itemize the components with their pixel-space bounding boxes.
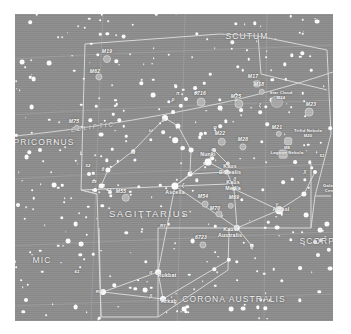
greek-letter-13: η [250, 245, 253, 250]
greek-letter-16: α [149, 270, 152, 275]
dso-label-m54: M54 [198, 194, 208, 199]
dso-label-m18: M18 [254, 82, 264, 87]
dso-label-m62: M62 [90, 69, 100, 74]
nebula-label-star-cloud: Star CloudM24 [269, 91, 292, 101]
star-label-kaus-media: KausMedia [225, 180, 241, 192]
greek-letter-9: ε [236, 224, 239, 229]
greek-letter-12: ξ [259, 103, 261, 108]
greek-letter-5: ζ [182, 183, 185, 188]
dso-label-m25: M25 [231, 94, 241, 99]
dso-label-m70: M70 [210, 206, 220, 211]
dso-label-6723: 6723 [195, 235, 207, 240]
star-label-arkab: Arkab [161, 299, 177, 304]
star-label-kaus-borealis: KausBorealis [219, 164, 241, 176]
star-label-alnasl: Alnasl [273, 207, 290, 212]
greek-letter-0: π [176, 91, 180, 96]
star-label-kaus-australis: KausAustralis [218, 227, 242, 239]
dso-label-m23: M23 [306, 102, 316, 107]
greek-letter-14: θ [102, 167, 105, 172]
greek-letter-1: ρ [171, 97, 174, 102]
small-label-4: 61 [74, 270, 79, 274]
small-label-6: RY [160, 224, 166, 228]
greek-letter-18: φ [213, 125, 217, 130]
constellation-label-capricornus: CAPRICORNUS [15, 138, 74, 147]
dso-label-m22: M22 [215, 131, 225, 136]
dso-label-m19: M19 [102, 49, 112, 54]
nebula-label-m8: M8Lagoon Nebula [271, 146, 304, 156]
star-label-rukbat: Rukbat [158, 273, 177, 278]
constellation-label-sagittarius: SAGITTARIUS [109, 209, 189, 219]
greek-letter-19: χ [303, 169, 306, 174]
small-label-1: 52 [85, 164, 90, 168]
greek-letter-2: υ [161, 118, 164, 123]
ecliptic-label: ECLIPTIC [70, 121, 115, 133]
dso-label-m69: M69 [229, 195, 239, 200]
dso-label-m75: M75 [69, 119, 79, 124]
nebula-label-galactic: GalacticCenter [323, 184, 333, 194]
small-label-7: 51 [319, 154, 324, 158]
dso-label-m28: M28 [238, 137, 248, 142]
constellation-label-mic: MIC [33, 256, 52, 265]
labels-layer: SCUTUMSAGITTARIUSCAPRICORNUSMICSCORPIUSC… [15, 14, 333, 321]
greek-letter-3: ω [149, 128, 153, 133]
small-label-5: RU [96, 290, 102, 294]
greek-letter-8: δ [233, 177, 236, 182]
dso-label-m17: M17 [248, 74, 258, 79]
constellation-label-corona-australis: CORONA AUSTRALIS [182, 295, 286, 304]
star-label-ascella: Ascella [165, 190, 185, 195]
star-chart-root: SCUTUMSAGITTARIUSCAPRICORNUSMICSCORPIUSC… [0, 0, 351, 334]
small-label-3: 62 [106, 188, 111, 192]
greek-letter-6: σ [211, 147, 215, 152]
nebula-label-trifid-nebula: Trifid NebulaM20 [294, 129, 322, 139]
constellation-label-scutum: SCUTUM [226, 32, 269, 41]
dso-label-m55: M55 [116, 189, 126, 194]
star-label-nunki: Nunki [200, 152, 215, 157]
greek-letter-10: γ [276, 202, 279, 207]
small-label-2: 59 [91, 180, 96, 184]
greek-letter-11: μ [234, 97, 237, 102]
constellation-label-scorpius: SCORPIUS [299, 237, 333, 246]
dso-label-6716: 6716 [194, 91, 206, 96]
dso-label-m21: M21 [272, 125, 282, 130]
small-label-0: 51 [130, 151, 135, 155]
greek-letter-4: τ [190, 170, 192, 175]
sky-panel: SCUTUMSAGITTARIUSCAPRICORNUSMICSCORPIUSC… [15, 14, 333, 321]
greek-letter-17: β [149, 294, 152, 299]
greek-letter-7: λ [227, 161, 230, 166]
greek-letter-15: ι [98, 186, 100, 191]
